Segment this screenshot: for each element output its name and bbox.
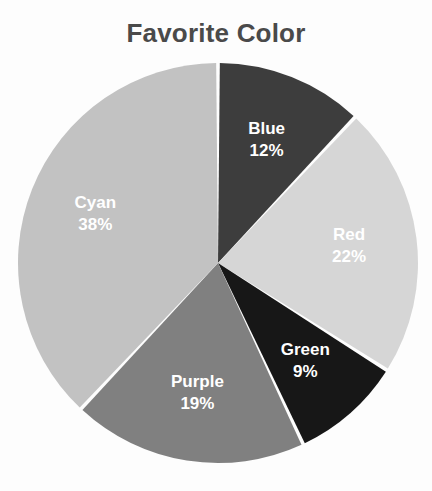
pie-slice-label-cyan: Cyan [75, 193, 117, 212]
pie-chart-svg: Blue12%Red22%Green9%Purple19%Cyan38% [0, 0, 432, 491]
pie-chart-figure: Favorite Color Blue12%Red22%Green9%Purpl… [0, 0, 432, 491]
pie-slice-value-red: 22% [332, 247, 366, 266]
pie-slice-value-purple: 19% [180, 394, 214, 413]
pie-slice-label-purple: Purple [171, 372, 224, 391]
pie-slice-label-blue: Blue [248, 119, 285, 138]
pie-slice-label-red: Red [333, 225, 365, 244]
pie-slice-value-blue: 12% [250, 141, 284, 160]
pie-slice-label-green: Green [281, 340, 330, 359]
pie-slice-value-green: 9% [293, 362, 318, 381]
pie-slice-value-cyan: 38% [78, 215, 112, 234]
